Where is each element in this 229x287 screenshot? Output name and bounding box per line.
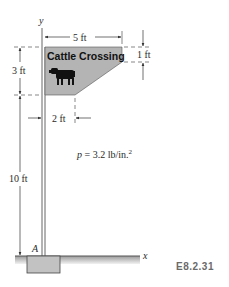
dimension-sign-width: 5 ft xyxy=(45,31,122,44)
svg-text:3 ft: 3 ft xyxy=(12,65,26,76)
svg-text:p = 3.2 lb/in.2: p = 3.2 lb/in.2 xyxy=(76,148,132,160)
dimension-right-edge-height: 1 ft xyxy=(137,30,151,80)
svg-text:2 ft: 2 ft xyxy=(52,113,66,124)
svg-text:1 ft: 1 ft xyxy=(137,49,151,60)
dimension-bottom-edge-width: 2 ft xyxy=(28,113,91,124)
x-axis-label: x xyxy=(142,250,148,261)
footing-block xyxy=(27,256,60,273)
dimension-sign-height: 3 ft xyxy=(12,48,26,94)
dimension-post-height: 10 ft xyxy=(9,96,28,255)
post xyxy=(42,28,45,256)
pressure-equation: p = 3.2 lb/in.2 xyxy=(76,148,132,160)
figure-id-label: E8.2.31 xyxy=(176,261,214,272)
svg-text:5 ft: 5 ft xyxy=(73,32,87,43)
pressure-value: = 3.2 lb/in. xyxy=(82,149,128,160)
sign-text: Cattle Crossing xyxy=(47,50,125,62)
pressure-exponent: 2 xyxy=(128,148,132,156)
origin-label-a: A xyxy=(31,243,39,254)
y-axis-label: y xyxy=(38,15,44,26)
sign-post-diagram: x A y Cattle Crossing 5 ft xyxy=(0,0,229,287)
svg-text:10 ft: 10 ft xyxy=(9,173,28,184)
